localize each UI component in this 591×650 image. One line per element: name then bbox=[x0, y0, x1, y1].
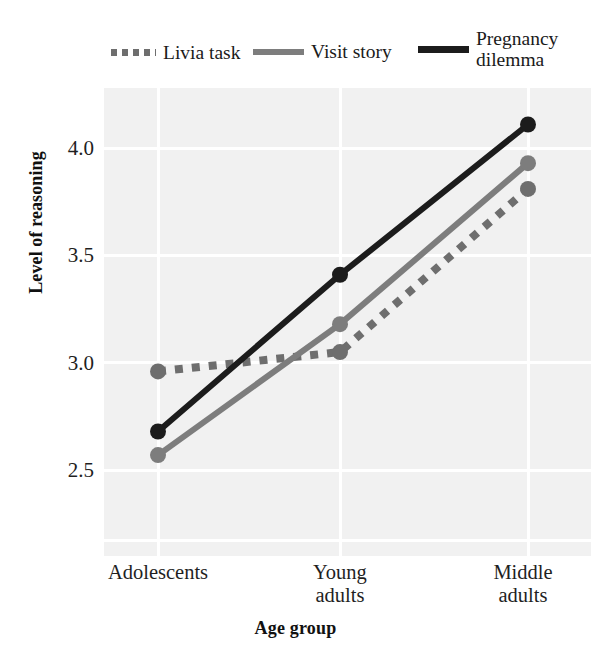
x-tick-label-young-adults: Youngadults bbox=[255, 561, 425, 607]
data-point-marker bbox=[520, 155, 536, 171]
data-point-marker bbox=[520, 116, 536, 132]
y-tick-label: 3.0 bbox=[2, 350, 94, 375]
x-tick-label-line: adults bbox=[255, 584, 425, 607]
x-axis-title: Age group bbox=[0, 618, 591, 639]
y-axis-title: Level of reasoning bbox=[26, 123, 47, 323]
data-point-marker bbox=[332, 316, 348, 332]
x-tick-label-line: Young bbox=[255, 561, 425, 584]
dotted-gray-line-swatch bbox=[111, 49, 156, 56]
solid-black-line-swatch bbox=[418, 46, 469, 53]
x-tick-label-middle-adults: Middleadults bbox=[438, 561, 591, 607]
data-point-marker bbox=[520, 181, 536, 197]
x-tick-label-line: adults bbox=[438, 584, 591, 607]
legend-item-livia-task[interactable]: Livia task bbox=[111, 42, 240, 63]
series-pregnancy-dilemma bbox=[150, 116, 536, 439]
data-point-marker bbox=[150, 363, 166, 379]
figure-canvas: Livia task Visit story Pregnancy dilemma… bbox=[0, 0, 591, 650]
plot-area bbox=[104, 88, 591, 556]
y-axis-tick-labels: 4.0 3.5 3.0 2.5 bbox=[0, 0, 94, 650]
legend-label-livia-task: Livia task bbox=[163, 42, 240, 63]
x-tick-label-line: Middle bbox=[438, 561, 591, 584]
x-tick-label-adolescents: Adolescents bbox=[58, 561, 258, 584]
legend-label-pregnancy-dilemma: Pregnancy dilemma bbox=[476, 28, 591, 70]
series-line bbox=[158, 163, 528, 455]
data-point-marker bbox=[332, 267, 348, 283]
legend-item-pregnancy-dilemma[interactable]: Pregnancy dilemma bbox=[418, 28, 591, 70]
x-tick-label-line: Adolescents bbox=[58, 561, 258, 584]
y-tick-label: 4.0 bbox=[2, 136, 94, 161]
y-tick-label: 2.5 bbox=[2, 458, 94, 483]
solid-gray-line-swatch bbox=[253, 49, 304, 55]
data-point-marker bbox=[150, 423, 166, 439]
series-visit-story bbox=[150, 155, 536, 463]
legend-label-visit-story: Visit story bbox=[311, 41, 392, 62]
data-point-marker bbox=[150, 447, 166, 463]
data-point-marker bbox=[332, 344, 348, 360]
y-tick-label: 3.5 bbox=[2, 243, 94, 268]
series-lines-layer bbox=[104, 88, 591, 556]
legend-item-visit-story[interactable]: Visit story bbox=[253, 41, 392, 62]
